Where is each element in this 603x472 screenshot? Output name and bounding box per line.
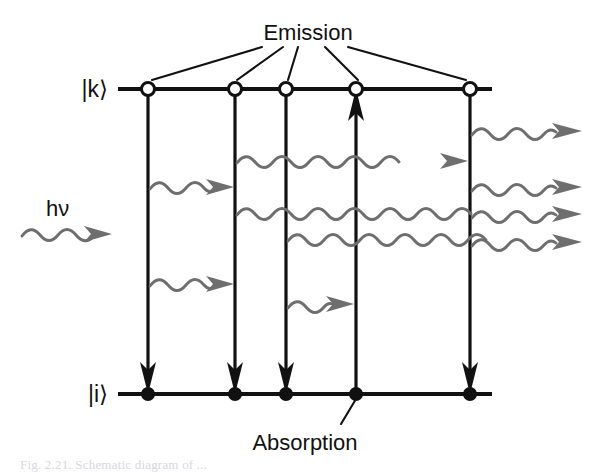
photon-outgoing-4 bbox=[472, 234, 582, 251]
photon-outgoing-3 bbox=[472, 206, 582, 223]
emission-leader-5 bbox=[348, 47, 466, 80]
photon-wave-emitted-2 bbox=[150, 280, 216, 291]
transition-emission-2 bbox=[227, 89, 243, 394]
photon-wave-outgoing-4 bbox=[472, 240, 556, 251]
emission-label: Emission bbox=[263, 20, 352, 45]
photon-arrowhead-emitted-1 bbox=[206, 179, 234, 195]
absorption-label: Absorption bbox=[252, 430, 357, 455]
photon-wave-outgoing-3 bbox=[472, 212, 556, 223]
photon-outgoing-1 bbox=[472, 123, 582, 140]
photon-wave-emitted-3 bbox=[237, 157, 399, 168]
emission-leader-lines bbox=[152, 47, 466, 80]
upper-node-3 bbox=[280, 83, 293, 96]
photon-emitted-1 bbox=[150, 179, 234, 195]
lower-node-1 bbox=[142, 388, 154, 400]
photon-outgoing-2 bbox=[472, 179, 582, 196]
photon-wave-emitted-1 bbox=[150, 183, 216, 194]
photon-wave-emitted-4 bbox=[237, 209, 471, 220]
upper-node-5 bbox=[464, 83, 477, 96]
photon-wave-incident bbox=[22, 230, 94, 241]
photon-arrowhead-emitted-3 bbox=[440, 153, 468, 169]
photon-wave-outgoing-2 bbox=[472, 185, 556, 196]
photon-emitted-2 bbox=[150, 276, 234, 292]
lower-node-2 bbox=[229, 388, 241, 400]
photon-arrowhead-incident bbox=[84, 226, 112, 242]
upper-node-1 bbox=[142, 83, 155, 96]
absorption-leader-line bbox=[341, 399, 356, 424]
photon-wave-outgoing-1 bbox=[472, 129, 556, 140]
lower-state-label: |i⟩ bbox=[88, 381, 108, 407]
photon-arrowhead-emitted-2 bbox=[206, 276, 234, 292]
lower-node-5 bbox=[464, 388, 476, 400]
upper-node-4 bbox=[350, 83, 363, 96]
transition-emission-1 bbox=[140, 89, 156, 394]
photon-incident bbox=[22, 226, 112, 242]
photon-waves bbox=[22, 123, 582, 313]
emission-leader-4 bbox=[325, 47, 358, 80]
photon-emitted-6 bbox=[288, 296, 354, 313]
incident-photon-label: hν bbox=[46, 196, 69, 221]
transition-absorption-4 bbox=[348, 89, 364, 394]
energy-level-diagram: Emission |k⟩ |i⟩ bbox=[0, 0, 603, 472]
emission-leader-3 bbox=[288, 47, 298, 80]
photon-wave-emitted-5 bbox=[288, 235, 486, 246]
photon-emitted-5 bbox=[288, 235, 486, 246]
photon-emitted-3 bbox=[237, 153, 468, 169]
figure-root: Emission |k⟩ |i⟩ bbox=[0, 0, 603, 472]
transition-emission-3 bbox=[278, 89, 294, 394]
upper-state-label: |k⟩ bbox=[82, 76, 108, 102]
photon-emitted-4 bbox=[237, 209, 471, 220]
upper-node-2 bbox=[229, 83, 242, 96]
lower-node-3 bbox=[280, 388, 292, 400]
